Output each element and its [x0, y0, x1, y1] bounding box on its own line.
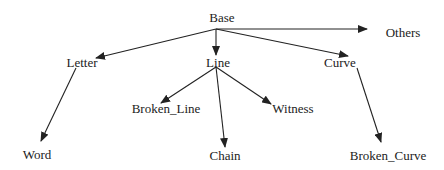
edge-line-chain	[216, 67, 225, 147]
edge-line-witness	[216, 67, 271, 104]
node-word: Word	[23, 148, 52, 161]
edge-letter-word	[41, 68, 76, 141]
node-base: Base	[209, 11, 234, 24]
edge-base-letter	[96, 29, 216, 58]
node-curve: Curve	[324, 56, 356, 69]
node-others: Others	[386, 26, 421, 39]
node-broken-line: Broken_Line	[132, 102, 201, 115]
node-line: Line	[206, 56, 230, 69]
edge-curve-broken-curve	[357, 68, 381, 142]
edges-layer	[0, 0, 444, 170]
node-chain: Chain	[209, 149, 240, 162]
node-broken-curve: Broken_Curve	[350, 149, 427, 162]
node-letter: Letter	[66, 56, 97, 69]
edge-line-broken-line	[161, 67, 216, 103]
hierarchy-diagram: Base Others Letter Line Curve Broken_Lin…	[0, 0, 444, 170]
node-witness: Witness	[272, 102, 313, 115]
edge-base-curve	[216, 29, 348, 56]
